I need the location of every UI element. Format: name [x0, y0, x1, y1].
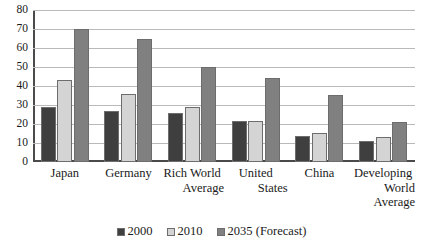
bar: [104, 111, 119, 162]
bars-layer: [33, 10, 415, 162]
bar: [74, 29, 89, 162]
bar: [121, 94, 136, 162]
legend-item: 2010: [167, 224, 203, 239]
bar: [41, 107, 56, 162]
y-tick-label-70: 70: [2, 23, 28, 35]
y-tick-label-50: 50: [2, 61, 28, 73]
bar: [185, 107, 200, 162]
chart-legend: 200020102035 (Forecast): [0, 224, 423, 239]
legend-swatch: [167, 228, 175, 236]
legend-label: 2035 (Forecast): [228, 224, 307, 239]
category-label-line: World: [351, 181, 415, 196]
bar: [295, 136, 310, 162]
category-label-line: States: [224, 181, 288, 196]
y-tick-label-10: 10: [2, 137, 28, 149]
category-label: China: [288, 166, 352, 181]
bar: [137, 39, 152, 163]
bar-group: [351, 10, 415, 162]
bar-group: [160, 10, 224, 162]
x-axis-category-labels: JapanGermanyRich WorldAverageUnitedState…: [33, 166, 415, 218]
legend-label: 2000: [128, 224, 153, 239]
legend-item: 2000: [117, 224, 153, 239]
y-tick-label-30: 30: [2, 99, 28, 111]
bar: [232, 121, 247, 162]
category-label-line: United: [224, 166, 288, 181]
bar: [201, 67, 216, 162]
bar-chart: 80706050403020100 JapanGermanyRich World…: [0, 0, 423, 245]
category-label-line: Average: [160, 181, 224, 196]
legend-item: 2035 (Forecast): [217, 224, 307, 239]
bar: [392, 122, 407, 162]
y-tick-label-20: 20: [2, 118, 28, 130]
category-label-line: Germany: [97, 166, 161, 181]
bar: [359, 141, 374, 162]
category-label-line: China: [288, 166, 352, 181]
category-label-line: Rich World: [160, 166, 224, 181]
category-label: UnitedStates: [224, 166, 288, 195]
bar: [376, 137, 391, 162]
bar-group: [33, 10, 97, 162]
category-label: Germany: [97, 166, 161, 181]
category-label-line: Japan: [33, 166, 97, 181]
bar-group: [224, 10, 288, 162]
bar: [312, 133, 327, 162]
bar: [57, 80, 72, 162]
category-label: DevelopingWorldAverage: [351, 166, 415, 210]
bar: [248, 121, 263, 162]
bar: [265, 78, 280, 162]
bar-group: [288, 10, 352, 162]
category-label-line: Developing: [351, 166, 415, 181]
legend-label: 2010: [178, 224, 203, 239]
legend-swatch: [117, 228, 125, 236]
y-tick-label-0: 0: [2, 156, 28, 168]
bar: [328, 95, 343, 162]
y-tick-label-80: 80: [2, 4, 28, 16]
bar: [168, 113, 183, 162]
y-tick-label-60: 60: [2, 42, 28, 54]
legend-swatch: [217, 228, 225, 236]
y-tick-label-40: 40: [2, 80, 28, 92]
category-label: Rich WorldAverage: [160, 166, 224, 195]
bar-group: [97, 10, 161, 162]
category-label: Japan: [33, 166, 97, 181]
category-label-line: Average: [351, 195, 415, 210]
